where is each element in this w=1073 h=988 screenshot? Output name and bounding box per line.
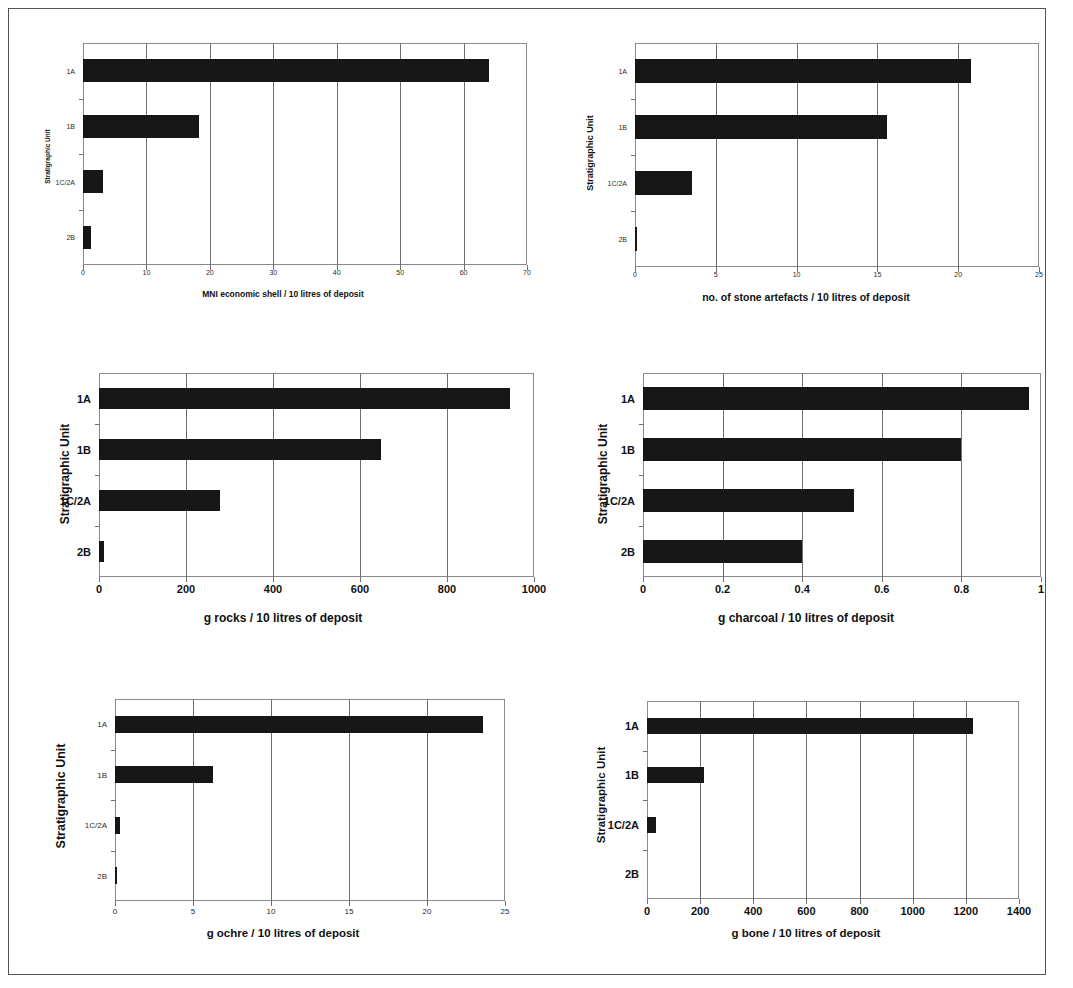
x-axis-title: g rocks / 10 litres of deposit bbox=[27, 611, 539, 625]
x-tick-label: 0.2 bbox=[715, 583, 730, 595]
bar bbox=[99, 388, 510, 408]
x-tick-label: 10 bbox=[267, 907, 276, 916]
x-tick-label: 0.4 bbox=[795, 583, 810, 595]
x-tick-label: 0 bbox=[96, 583, 102, 595]
x-tick-label: 600 bbox=[797, 905, 815, 917]
x-tick-label: 30 bbox=[269, 269, 277, 276]
y-tick-mark bbox=[639, 424, 643, 425]
y-tick-mark bbox=[79, 154, 83, 155]
y-tick-mark bbox=[79, 99, 83, 100]
bar bbox=[83, 170, 103, 193]
chart-panel-bone: Stratigraphic Unit 1A1B1C/2A2B 020040060… bbox=[565, 681, 1047, 961]
y-tick-mark bbox=[95, 424, 99, 425]
y-tick-label: 2B bbox=[5, 234, 75, 241]
x-tick-label: 5 bbox=[714, 271, 718, 278]
x-tick-label: 1000 bbox=[900, 905, 924, 917]
x-tick-label: 0 bbox=[644, 905, 650, 917]
x-tick-mark bbox=[802, 577, 803, 582]
x-tick-label: 0 bbox=[81, 269, 85, 276]
y-tick-label: 1B bbox=[569, 769, 639, 781]
x-tick-mark bbox=[534, 577, 535, 582]
y-tick-label: 1A bbox=[557, 68, 627, 75]
figure-page: Stratigraphic Unit 1A1B1C/2A2B 010203040… bbox=[8, 8, 1046, 975]
plot-area-ochre: 1A1B1C/2A2B bbox=[115, 699, 505, 901]
x-tick-mark bbox=[806, 899, 807, 904]
y-tick-label: 1A bbox=[37, 720, 107, 729]
x-tick-label: 200 bbox=[691, 905, 709, 917]
bar bbox=[643, 387, 1029, 409]
x-tick-mark bbox=[273, 577, 274, 582]
y-tick-mark bbox=[643, 850, 647, 851]
x-tick-mark bbox=[961, 577, 962, 582]
x-tick-mark bbox=[647, 899, 648, 904]
y-tick-mark bbox=[631, 211, 635, 212]
bar bbox=[647, 817, 656, 833]
x-tick-label: 400 bbox=[264, 583, 282, 595]
x-tick-label: 20 bbox=[954, 271, 962, 278]
chart-panel-ochre: Stratigraphic Unit 1A1B1C/2A2B 051015202… bbox=[27, 681, 539, 961]
x-tick-label: 10 bbox=[793, 271, 801, 278]
x-tick-label: 200 bbox=[177, 583, 195, 595]
x-tick-labels: 0510152025 bbox=[635, 271, 1039, 285]
bar bbox=[635, 115, 887, 139]
x-tick-mark bbox=[360, 577, 361, 582]
x-tick-label: 20 bbox=[423, 907, 432, 916]
x-tick-label: 5 bbox=[191, 907, 195, 916]
y-tick-label: 1C/2A bbox=[565, 495, 635, 507]
x-tick-labels: 0510152025 bbox=[115, 907, 505, 921]
x-tick-label: 0.8 bbox=[954, 583, 969, 595]
bar bbox=[635, 227, 637, 251]
y-axis-title: Stratigraphic Unit bbox=[596, 394, 610, 554]
x-tick-label: 0 bbox=[633, 271, 637, 278]
bar bbox=[647, 718, 973, 734]
y-tick-label: 1A bbox=[5, 67, 75, 74]
x-tick-label: 1 bbox=[1038, 583, 1044, 595]
y-tick-mark bbox=[643, 751, 647, 752]
y-tick-mark bbox=[643, 800, 647, 801]
x-axis-title: no. of stone artefacts / 10 litres of de… bbox=[565, 291, 1047, 303]
y-tick-label: 1C/2A bbox=[569, 819, 639, 831]
y-tick-label: 2B bbox=[569, 868, 639, 880]
plot-area-bone: 1A1B1C/2A2B bbox=[647, 701, 1019, 899]
x-tick-label: 20 bbox=[206, 269, 214, 276]
y-tick-label: 1B bbox=[557, 124, 627, 131]
x-tick-label: 70 bbox=[523, 269, 531, 276]
bar bbox=[83, 59, 489, 82]
bar bbox=[99, 490, 220, 510]
x-tick-mark bbox=[913, 899, 914, 904]
y-tick-label: 1C/2A bbox=[21, 495, 91, 507]
x-tick-mark bbox=[966, 899, 967, 904]
y-tick-mark bbox=[111, 750, 115, 751]
x-tick-mark bbox=[186, 577, 187, 582]
bar bbox=[643, 438, 961, 460]
y-tick-label: 1A bbox=[565, 393, 635, 405]
bar bbox=[635, 59, 971, 83]
x-tick-mark bbox=[427, 901, 428, 906]
plot-area-stone-artefacts: 1A1B1C/2A2B bbox=[635, 43, 1039, 267]
y-axis-title: Stratigraphic Unit bbox=[585, 98, 595, 208]
x-tick-label: 0.6 bbox=[874, 583, 889, 595]
x-tick-mark bbox=[447, 577, 448, 582]
y-tick-label: 2B bbox=[557, 236, 627, 243]
x-tick-labels: 02004006008001000 bbox=[99, 583, 534, 599]
x-tick-label: 800 bbox=[438, 583, 456, 595]
y-tick-label: 1C/2A bbox=[37, 821, 107, 830]
y-tick-mark bbox=[111, 800, 115, 801]
x-tick-mark bbox=[1041, 577, 1042, 582]
x-tick-label: 10 bbox=[143, 269, 151, 276]
y-tick-label: 1C/2A bbox=[5, 178, 75, 185]
x-tick-mark bbox=[753, 899, 754, 904]
bar bbox=[115, 766, 213, 783]
y-tick-mark bbox=[111, 851, 115, 852]
x-axis-title: g bone / 10 litres of deposit bbox=[565, 927, 1047, 939]
y-tick-mark bbox=[639, 526, 643, 527]
x-tick-label: 600 bbox=[351, 583, 369, 595]
y-tick-mark bbox=[631, 99, 635, 100]
y-tick-label: 2B bbox=[21, 546, 91, 558]
y-tick-mark bbox=[95, 475, 99, 476]
x-tick-mark bbox=[193, 901, 194, 906]
x-tick-mark bbox=[1019, 899, 1020, 904]
y-tick-mark bbox=[79, 210, 83, 211]
y-axis-title: Stratigraphic Unit bbox=[54, 716, 68, 876]
y-tick-label: 1B bbox=[565, 444, 635, 456]
